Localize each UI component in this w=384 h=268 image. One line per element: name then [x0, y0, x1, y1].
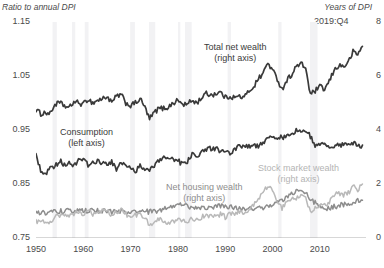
y-tick-left-0.85: 0.85 [0, 178, 30, 188]
series-label-stock-market-wealth: Stock market wealth(right axis) [258, 163, 339, 185]
series-label-total-net-wealth: Total net wealth(right axis) [204, 42, 267, 64]
y-tick-right-4: 4 [376, 124, 384, 134]
recession-band [178, 22, 180, 238]
x-tick-1970: 1970 [111, 244, 151, 254]
series-label-net-housing-wealth: Net housing wealth(right axis) [166, 182, 243, 204]
y-axis-left-title: Ratio to annual DPI [2, 2, 76, 12]
series-label-axis-note: (right axis) [204, 53, 267, 64]
series-label-axis-note: (right axis) [166, 193, 243, 204]
series-label-title: Total net wealth [204, 42, 267, 53]
y-tick-right-6: 6 [376, 70, 384, 80]
y-tick-left-0.75: 0.75 [0, 232, 30, 242]
y-tick-right-8: 8 [376, 16, 384, 26]
y-axis-right-title: Years of DPI [324, 2, 372, 12]
series-label-title: Consumption [60, 127, 113, 138]
x-tick-1950: 1950 [16, 244, 56, 254]
recession-band [53, 22, 57, 238]
series-label-axis-note: (left axis) [60, 138, 113, 149]
series-label-title: Stock market wealth [258, 163, 339, 174]
recession-band [310, 22, 318, 238]
y-tick-left-0.95: 0.95 [0, 124, 30, 134]
chart-container: Ratio to annual DPI Years of DPI 2019:Q4… [0, 0, 384, 268]
y-tick-left-1.15: 1.15 [0, 16, 30, 26]
y-tick-left-1.05: 1.05 [0, 70, 30, 80]
x-tick-2000: 2000 [253, 244, 293, 254]
x-tick-1980: 1980 [158, 244, 198, 254]
x-tick-1960: 1960 [63, 244, 103, 254]
recession-band [130, 22, 135, 238]
y-tick-right-2: 2 [376, 178, 384, 188]
x-tick-1990: 1990 [205, 244, 245, 254]
series-label-title: Net housing wealth [166, 182, 243, 193]
recession-band [149, 22, 155, 238]
series-label-consumption: Consumption(left axis) [60, 127, 113, 149]
series-label-axis-note: (right axis) [258, 174, 339, 185]
y-tick-right-0: 0 [376, 232, 384, 242]
x-tick-2010: 2010 [300, 244, 340, 254]
